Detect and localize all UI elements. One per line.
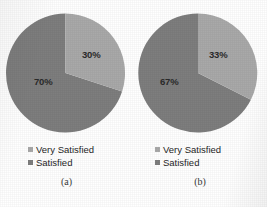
pie-b-svg (133, 0, 267, 140)
legend-b: Very Satisfied Satisfied (133, 143, 266, 169)
pie-a-label-satisfied: 70% (34, 77, 52, 87)
legend-item-satisfied: Satisfied (28, 156, 72, 168)
chart-panel-a: 30% 70% Very Satisfied Satisfied (a) (0, 0, 133, 207)
legend-swatch-icon-very-satisfied (155, 147, 160, 152)
pie-b-label-very-satisfied: 33% (209, 50, 227, 60)
pie-a-svg (0, 0, 133, 140)
legend-label-satisfied: Satisfied (36, 157, 72, 168)
legend-a: Very Satisfied Satisfied (0, 143, 133, 169)
legend-item-very-satisfied: Very Satisfied (28, 143, 94, 155)
legend-swatch-icon-satisfied (28, 160, 33, 165)
legend-label-satisfied: Satisfied (163, 157, 199, 168)
pie-a-label-very-satisfied: 30% (82, 50, 100, 60)
legend-label-very-satisfied: Very Satisfied (163, 144, 221, 155)
legend-swatch-icon-very-satisfied (28, 147, 33, 152)
legend-swatch-icon-satisfied (155, 160, 160, 165)
pie-chart-figure: 30% 70% Very Satisfied Satisfied (a) 33% (0, 0, 267, 207)
legend-item-very-satisfied: Very Satisfied (155, 143, 221, 155)
panel-caption-a: (a) (0, 176, 133, 187)
pie-b-label-satisfied: 67% (160, 77, 178, 87)
pie-chart-a: 30% 70% (0, 0, 133, 140)
legend-item-satisfied: Satisfied (155, 156, 199, 168)
chart-panel-b: 33% 67% Very Satisfied Satisfied (b) (133, 0, 267, 207)
pie-chart-b: 33% 67% (133, 0, 266, 140)
legend-label-very-satisfied: Very Satisfied (36, 144, 94, 155)
panel-caption-b: (b) (133, 176, 267, 187)
